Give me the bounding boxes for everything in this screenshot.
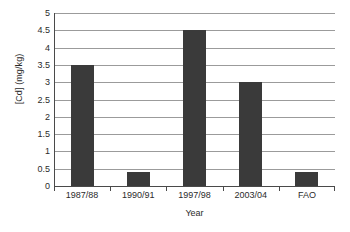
bar [71, 65, 94, 186]
y-axis-tick-labels: 00.511.522.533.544.55 [22, 13, 50, 186]
x-axis-line [54, 186, 335, 187]
x-axis-title: Year [54, 208, 335, 218]
x-axis-tick-label: 2003/04 [223, 190, 279, 200]
y-axis-tick-label: 2.5 [22, 95, 50, 105]
y-axis-tick-label: 1 [22, 146, 50, 156]
bar [295, 172, 318, 186]
x-axis-tick-labels: 1987/881990/911997/982003/04FAO [54, 190, 335, 204]
x-axis-tick-label: 1990/91 [110, 190, 166, 200]
plot-area [54, 13, 335, 186]
y-axis-tick-label: 0 [22, 181, 50, 191]
bar [127, 172, 150, 186]
x-axis-tick-label: 1997/98 [166, 190, 222, 200]
y-axis-line [54, 13, 55, 187]
x-axis-tick-label: 1987/88 [54, 190, 110, 200]
bar [183, 30, 206, 186]
gridline [54, 13, 335, 14]
y-axis-tick-label: 5 [22, 8, 50, 18]
y-axis-tick-label: 2 [22, 112, 50, 122]
x-axis-tick-label: FAO [279, 190, 335, 200]
bar [239, 82, 262, 186]
y-axis-tick-label: 3 [22, 77, 50, 87]
y-axis-tick-label: 3.5 [22, 60, 50, 70]
y-axis-tick-label: 4 [22, 43, 50, 53]
bar-chart-figure: [Cd] (mg/kg) 00.511.522.533.544.55 1987/… [0, 0, 350, 232]
y-axis-tick-label: 0.5 [22, 164, 50, 174]
y-axis-tick-label: 1.5 [22, 129, 50, 139]
y-axis-tick-label: 4.5 [22, 25, 50, 35]
